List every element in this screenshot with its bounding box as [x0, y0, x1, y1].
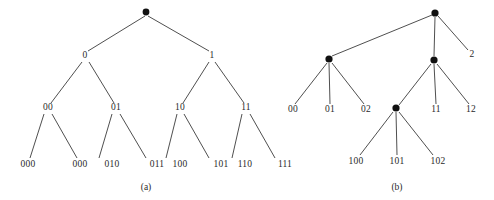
- tree-node-label: 00: [43, 102, 53, 112]
- panel-caption: (b): [391, 182, 402, 193]
- tree-leaf-label: 102: [431, 156, 446, 166]
- tree-edge: [232, 114, 242, 158]
- tree-edge: [89, 62, 114, 103]
- tree-leaf-label: 12: [466, 104, 476, 114]
- tree-node-label: 01: [111, 102, 121, 112]
- tree-edge: [396, 112, 397, 155]
- tree-node-dot: [431, 9, 438, 16]
- tree-leaf-label: 00: [288, 104, 298, 114]
- tree-edge: [183, 62, 209, 103]
- tree-leaf-label: 000: [21, 159, 36, 169]
- tree-leaf-label: 01: [325, 104, 335, 114]
- tree-edge: [184, 114, 209, 158]
- labels-layer: 0100011011000000010011100101110111200010…: [21, 49, 476, 169]
- tree-edge: [438, 16, 468, 50]
- tree-node-label: 0: [83, 50, 88, 60]
- tree-leaf-label: 111: [278, 159, 292, 169]
- tree-edge: [30, 114, 44, 158]
- tree-node-label: 1: [210, 50, 215, 60]
- tree-edge: [51, 62, 82, 103]
- tree-edge: [399, 112, 433, 155]
- tree-edge: [434, 17, 435, 56]
- tree-edge: [295, 63, 327, 104]
- tree-edge: [52, 114, 77, 158]
- tree-diagram-canvas: 0100011011000000010011100101110111200010…: [0, 0, 494, 200]
- tree-edge: [99, 114, 112, 158]
- tree-edge: [166, 114, 177, 158]
- tree-edge: [399, 64, 431, 105]
- tree-edge: [437, 64, 469, 104]
- tree-node-dot: [143, 9, 150, 16]
- tree-edge: [329, 63, 330, 104]
- tree-leaf-label: 101: [390, 156, 405, 166]
- tree-node-label: 10: [175, 102, 185, 112]
- tree-edge: [250, 114, 275, 158]
- tree-edge: [332, 15, 432, 56]
- tree-node-label: 11: [241, 102, 251, 112]
- tree-edge: [360, 112, 393, 155]
- tree-edge: [88, 16, 145, 51]
- panel-caption: (a): [141, 182, 152, 193]
- tree-leaf-label: 11: [431, 104, 441, 114]
- tree-leaf-label: 02: [361, 104, 371, 114]
- tree-leaf-label: 110: [238, 159, 253, 169]
- tree-leaf-label: 100: [173, 159, 188, 169]
- tree-leaf-label: 101: [214, 159, 229, 169]
- tree-edge: [120, 114, 146, 158]
- tree-edge: [148, 16, 209, 51]
- edges-layer: [30, 15, 469, 158]
- tree-leaf-label: 2: [470, 49, 475, 59]
- captions-layer: (a)(b): [141, 182, 403, 193]
- tree-node-dot: [430, 56, 437, 63]
- tree-leaf-label: 100: [349, 156, 364, 166]
- tree-leaf-label: 000: [73, 159, 88, 169]
- tree-edge: [434, 64, 436, 104]
- tree-leaf-label: 011: [150, 159, 165, 169]
- figure-container: 0100011011000000010011100101110111200010…: [0, 0, 494, 200]
- tree-node-dot: [325, 55, 332, 62]
- tree-node-dot: [392, 104, 399, 111]
- tree-edge: [215, 62, 244, 103]
- tree-edge: [332, 63, 364, 104]
- tree-leaf-label: 010: [105, 159, 120, 169]
